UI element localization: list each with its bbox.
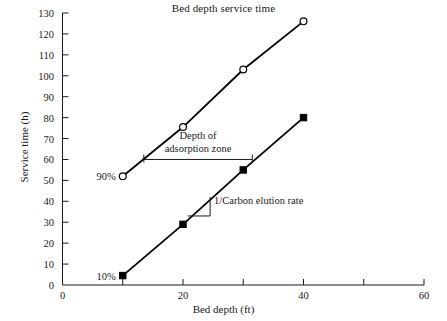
- axes-spines: [63, 13, 425, 285]
- chart-figure: Bed depth service time Service time (h) …: [0, 0, 447, 321]
- series-endpoint-label: 10%: [97, 270, 116, 281]
- annotation-line-1: Depth of: [165, 130, 232, 143]
- x-tick-label: 0: [60, 290, 65, 301]
- x-tick-label: 40: [298, 290, 309, 301]
- plot-area: [0, 0, 447, 321]
- annotation-line-1: 1/Carbon elution rate: [214, 195, 303, 208]
- y-tick-label: 80: [8, 112, 54, 123]
- y-tick-label: 120: [8, 28, 54, 39]
- y-tick-label: 0: [8, 280, 54, 291]
- y-tick-label: 100: [8, 70, 54, 81]
- y-tick-label: 130: [8, 8, 54, 19]
- y-axis-ticks: [63, 13, 69, 264]
- y-tick-label: 70: [8, 133, 54, 144]
- y-tick-label: 110: [8, 49, 54, 60]
- y-tick-label: 90: [8, 91, 54, 102]
- x-tick-label: 60: [419, 290, 430, 301]
- y-tick-label: 60: [8, 154, 54, 165]
- y-tick-label: 40: [8, 196, 54, 207]
- annotation-carbon-elution-rate: 1/Carbon elution rate: [214, 195, 303, 208]
- series-endpoint-label: 90%: [97, 171, 116, 182]
- y-tick-label: 50: [8, 175, 54, 186]
- x-axis-label: Bed depth (ft): [0, 303, 447, 315]
- y-tick-label: 30: [8, 217, 54, 228]
- annotation-line-2: adsorption zone: [165, 143, 232, 156]
- x-tick-label: 20: [178, 290, 189, 301]
- annotation-depth-of-adsorption-zone: Depth ofadsorption zone: [165, 130, 232, 155]
- y-tick-label: 20: [8, 238, 54, 249]
- y-tick-label: 10: [8, 259, 54, 270]
- x-axis-ticks: [123, 279, 424, 285]
